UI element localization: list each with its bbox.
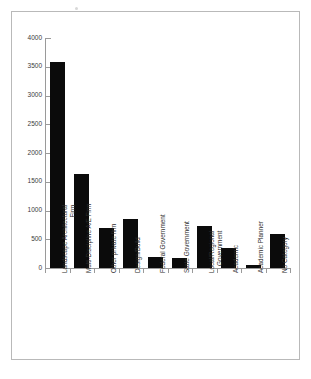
y-axis-tick-label: 2000 <box>12 150 42 157</box>
x-axis-tick-label: State Government <box>183 221 191 273</box>
chart-figure: 05001000150020002500300035004000 Landsca… <box>0 0 311 379</box>
x-axis-tick-label: Academic Planner <box>257 221 265 273</box>
x-axis-tick-label: Other private firm <box>110 224 118 273</box>
bars-layer <box>45 38 290 268</box>
x-axis-tick <box>241 268 242 273</box>
x-axis-tick <box>290 268 291 273</box>
y-axis-tick-label: 3000 <box>12 92 42 99</box>
scan-artifact-speck <box>75 7 78 10</box>
x-axis-tick <box>192 268 193 273</box>
y-axis-tick-label: 2500 <box>12 121 42 128</box>
x-axis-tick <box>45 268 46 273</box>
x-axis-tick-label: Multi-Discipline A/E Firm <box>85 204 93 273</box>
x-axis-tick-label: No Category <box>281 237 289 273</box>
y-axis-tick-label: 1500 <box>12 178 42 185</box>
x-axis-tick-label: Design/Build <box>134 237 142 273</box>
x-axis-tick <box>168 268 169 273</box>
y-axis-tick-label: 4000 <box>12 35 42 42</box>
x-axis-tick <box>143 268 144 273</box>
x-axis-tick-label: Landscape ArchitecturalFirm <box>61 205 76 273</box>
x-axis-tick-label: Federal Government <box>159 214 167 273</box>
y-axis-tick-label: 500 <box>12 236 42 243</box>
x-axis-tick <box>94 268 95 273</box>
x-axis-tick <box>266 268 267 273</box>
y-axis-tick-label: 1000 <box>12 207 42 214</box>
y-axis-tick-label: 3500 <box>12 63 42 70</box>
x-axis-tick-label: Academic <box>232 245 240 273</box>
x-axis-tick-label: Local/RegionalGovernment <box>208 231 223 273</box>
x-axis-tick <box>119 268 120 273</box>
y-axis-tick-label: 0 <box>12 265 42 272</box>
